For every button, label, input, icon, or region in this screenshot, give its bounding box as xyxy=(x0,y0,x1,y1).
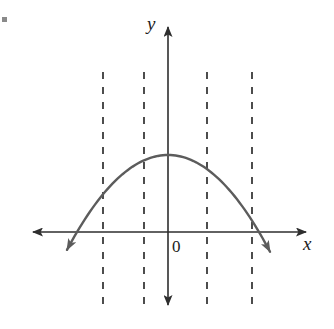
x-axis-label: x xyxy=(303,234,311,253)
y-axis-label: y xyxy=(147,14,155,33)
parabola-figure: y x 0 xyxy=(0,0,334,329)
graph-canvas xyxy=(0,0,334,329)
parabola-left-branch xyxy=(67,155,168,250)
origin-label: 0 xyxy=(172,238,181,255)
parabola-right-branch xyxy=(168,155,270,252)
